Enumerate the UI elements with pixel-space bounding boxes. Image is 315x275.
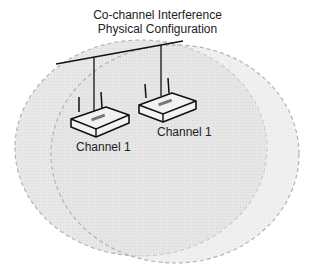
coverage-area-right (51, 45, 299, 263)
diagram: Co-channel Interference Physical Configu… (0, 0, 315, 275)
access-point-left-label: Channel 1 (76, 140, 131, 154)
diagram-title-line1: Co-channel Interference (0, 8, 315, 22)
access-point-right-label: Channel 1 (157, 125, 212, 139)
diagram-title-line2: Physical Configuration (0, 22, 315, 36)
